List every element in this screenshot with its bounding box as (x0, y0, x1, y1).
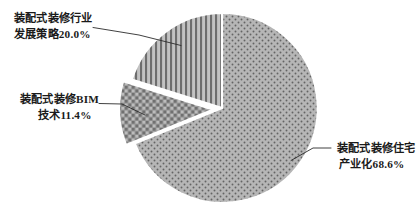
label-housing-industrialization-name: 产业化 (339, 157, 373, 170)
label-bim-technology-line2: 技术11.4% (38, 108, 92, 121)
label-housing-industrialization-line2: 产业化68.6% (339, 157, 404, 170)
label-housing-industrialization: 装配式装修住宅 产业化68.6% (336, 141, 415, 170)
label-industry-strategy-line1: 装配式装修行业 (13, 11, 92, 24)
pie-chart-figure: 装配式装修行业 发展策略20.0% 装配式装修BIM 技术11.4% 装配式装修… (0, 0, 419, 215)
label-industry-strategy-line2: 发展策略20.0% (13, 27, 91, 40)
label-industry-strategy: 装配式装修行业 发展策略20.0% (13, 11, 92, 40)
pie-chart-svg: 装配式装修行业 发展策略20.0% 装配式装修BIM 技术11.4% 装配式装修… (0, 0, 419, 215)
label-bim-technology-value: 11.4% (60, 109, 91, 121)
label-industry-strategy-name: 发展策略 (13, 27, 60, 40)
pie-slices (119, 13, 318, 203)
label-bim-technology-name: 技术 (38, 108, 61, 121)
label-housing-industrialization-value: 68.6% (373, 158, 405, 170)
label-industry-strategy-value: 20.0% (59, 28, 91, 40)
label-bim-technology: 装配式装修BIM 技术11.4% (19, 92, 99, 121)
label-bim-technology-line1: 装配式装修BIM (19, 92, 99, 105)
label-housing-industrialization-line1: 装配式装修住宅 (336, 141, 415, 154)
